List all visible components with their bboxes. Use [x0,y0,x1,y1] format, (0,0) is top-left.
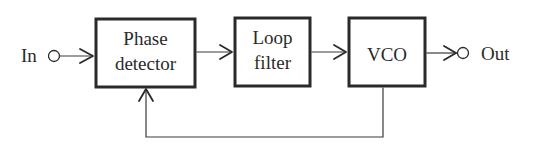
output-label: Out [481,43,510,64]
vco-label: VCO [367,44,407,65]
pll-diagram: In Phase detector Loop filter VCO Out [0,0,535,148]
input-label: In [21,45,37,66]
loop-filter-label-line1: Loop [252,27,292,48]
loop-filter-label-line2: filter [254,52,292,73]
phase-detector-label-line2: detector [115,53,177,74]
feedback-wire [146,88,383,138]
output-terminal-icon [458,48,469,59]
block-vco: VCO [349,18,425,86]
block-phase-detector: Phase detector [96,19,195,87]
block-loop-filter: Loop filter [235,18,310,86]
input-terminal-icon [49,51,60,62]
phase-detector-label-line1: Phase [123,28,167,49]
